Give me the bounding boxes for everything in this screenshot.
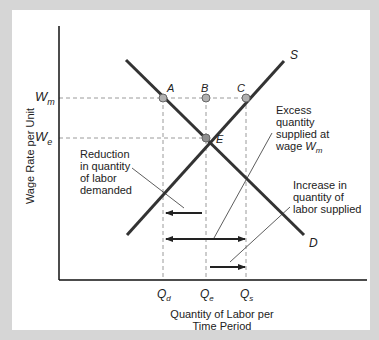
annotation-excess: Excess quantity supplied at wage Wm [276, 104, 329, 157]
tick-qd: Qd [157, 288, 171, 305]
tick-qe: Qe [200, 288, 214, 305]
tick-we: We [35, 131, 52, 148]
x-axis-label: Quantity of Labor per Time Period [150, 308, 294, 332]
annotation-reduction: Reduction in quantity of labor demanded [80, 148, 132, 196]
tick-qs: Qs [240, 288, 253, 305]
point-a [159, 94, 167, 102]
label-a: A [167, 82, 174, 94]
demand-label: D [309, 237, 318, 249]
diagram-canvas [0, 0, 379, 340]
label-b: B [201, 82, 208, 94]
label-c: C [237, 82, 245, 94]
y-axis-label: Wage Rate per Unit [24, 96, 36, 216]
point-b [202, 94, 210, 102]
point-c [242, 94, 250, 102]
supply-label: S [290, 49, 298, 61]
label-e: E [216, 133, 223, 145]
point-e [202, 134, 210, 142]
tick-wm: Wm [35, 91, 55, 108]
annotation-increase: Increase in quantity of labor supplied [293, 179, 362, 215]
